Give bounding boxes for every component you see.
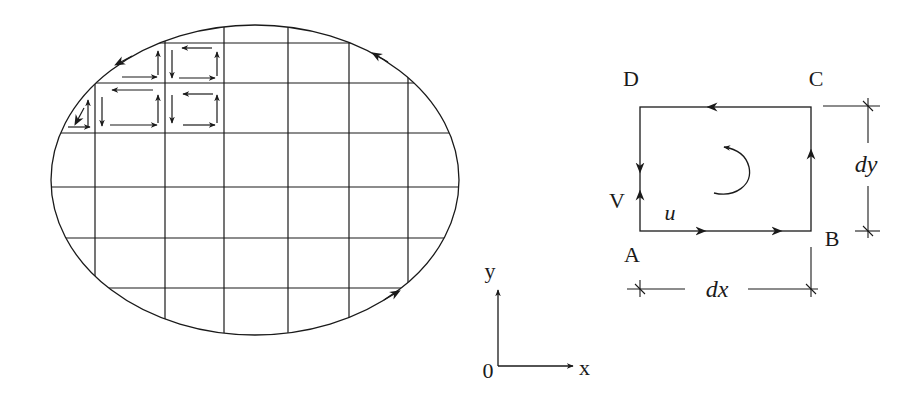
boundary-arrow-icon	[119, 56, 132, 63]
corner-c-label: C	[809, 66, 824, 91]
element-abcd: D C A B V u dx dy	[609, 66, 880, 302]
y-axis-label: y	[485, 258, 496, 283]
horizontal-velocity-label: u	[665, 200, 676, 225]
dx-label: dx	[706, 276, 729, 302]
dy-label: dy	[855, 151, 878, 177]
boundary-arrow-icon	[77, 108, 84, 121]
boundary-arrows	[77, 55, 396, 300]
corner-b-label: B	[825, 226, 840, 251]
coordinate-axes: y x 0	[483, 258, 591, 383]
corner-d-label: D	[623, 66, 639, 91]
flow-region	[40, 20, 470, 340]
boundary-arrow-icon	[384, 293, 396, 300]
boundary-arrow-icon	[376, 55, 388, 62]
circulation-diagram: y x 0 D C A B V u dx	[0, 0, 923, 401]
vertical-velocity-label: V	[609, 188, 625, 213]
grid-lines	[40, 20, 470, 340]
rotation-arrow-icon	[714, 147, 750, 194]
origin-label: 0	[483, 358, 494, 383]
cell-circulation-arrows	[68, 48, 217, 127]
corner-a-label: A	[624, 242, 640, 267]
x-axis-label: x	[579, 355, 590, 380]
